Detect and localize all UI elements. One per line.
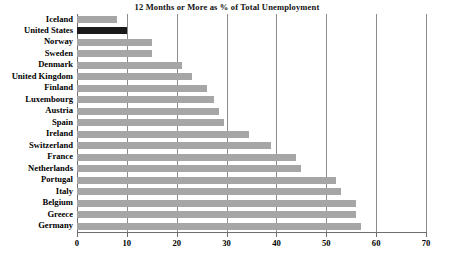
bar-row	[77, 37, 426, 48]
x-tick-label-0: 0	[57, 238, 97, 248]
bar-row	[77, 163, 426, 174]
category-label-switzerland: Switzerland	[0, 141, 73, 150]
x-tick-70	[426, 233, 427, 237]
category-label-ireland: Ireland	[0, 129, 73, 138]
bar-row	[77, 175, 426, 186]
category-label-denmark: Denmark	[0, 60, 73, 69]
category-label-france: France	[0, 152, 73, 161]
bar-denmark	[77, 62, 182, 69]
category-label-portugal: Portugal	[0, 175, 73, 184]
x-axis-line	[77, 232, 427, 233]
bar-row	[77, 60, 426, 71]
category-label-netherlands: Netherlands	[0, 164, 73, 173]
x-tick-60	[376, 233, 377, 237]
bar-spain	[77, 119, 224, 126]
bar-row	[77, 48, 426, 59]
category-label-italy: Italy	[0, 187, 73, 196]
category-label-iceland: Iceland	[0, 15, 73, 24]
category-label-austria: Austria	[0, 106, 73, 115]
bar-united-kingdom	[77, 73, 192, 80]
bar-row	[77, 106, 426, 117]
chart-title: 12 Months or More as % of Total Unemploy…	[0, 2, 454, 12]
bar-united-states	[77, 27, 127, 34]
bar-row	[77, 117, 426, 128]
x-tick-50	[326, 233, 327, 237]
bar-row	[77, 129, 426, 140]
category-label-germany: Germany	[0, 221, 73, 230]
bar-portugal	[77, 177, 336, 184]
x-tick-label-10: 10	[107, 238, 147, 248]
bar-row	[77, 71, 426, 82]
bar-row	[77, 14, 426, 25]
category-label-finland: Finland	[0, 83, 73, 92]
bar-finland	[77, 85, 207, 92]
bar-row	[77, 186, 426, 197]
bar-row	[77, 140, 426, 151]
bar-switzerland	[77, 142, 271, 149]
bar-ireland	[77, 131, 249, 138]
bar-germany	[77, 223, 361, 230]
gridline-70	[426, 14, 427, 232]
x-tick-40	[276, 233, 277, 237]
bar-greece	[77, 211, 356, 218]
bar-sweden	[77, 50, 152, 57]
category-label-spain: Spain	[0, 118, 73, 127]
bar-iceland	[77, 16, 117, 23]
bar-row	[77, 25, 426, 36]
x-tick-30	[227, 233, 228, 237]
plot-area	[77, 14, 426, 232]
bar-row	[77, 221, 426, 232]
category-label-belgium: Belgium	[0, 198, 73, 207]
x-tick-0	[77, 233, 78, 237]
bar-norway	[77, 39, 152, 46]
x-tick-label-20: 20	[157, 238, 197, 248]
bar-row	[77, 198, 426, 209]
x-tick-label-30: 30	[207, 238, 247, 248]
bar-italy	[77, 188, 341, 195]
category-label-greece: Greece	[0, 210, 73, 219]
category-label-luxembourg: Luxembourg	[0, 95, 73, 104]
x-tick-label-50: 50	[306, 238, 346, 248]
bar-row	[77, 83, 426, 94]
x-tick-label-40: 40	[256, 238, 296, 248]
bar-netherlands	[77, 165, 301, 172]
x-tick-10	[127, 233, 128, 237]
bar-row	[77, 209, 426, 220]
x-tick-label-60: 60	[356, 238, 396, 248]
x-tick-20	[177, 233, 178, 237]
category-label-united-kingdom: United Kingdom	[0, 72, 73, 81]
bar-belgium	[77, 200, 356, 207]
bar-row	[77, 94, 426, 105]
category-label-united-states: United States	[0, 26, 73, 35]
x-tick-label-70: 70	[406, 238, 446, 248]
category-label-norway: Norway	[0, 37, 73, 46]
chart-container: 12 Months or More as % of Total Unemploy…	[0, 0, 454, 257]
bar-france	[77, 154, 296, 161]
bar-row	[77, 152, 426, 163]
category-label-sweden: Sweden	[0, 49, 73, 58]
bar-austria	[77, 108, 219, 115]
bar-luxembourg	[77, 96, 214, 103]
bar-series	[77, 14, 426, 232]
